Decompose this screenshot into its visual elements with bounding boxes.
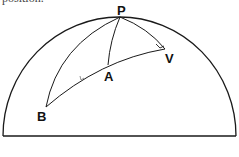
label-V: V <box>165 51 174 66</box>
label-P: P <box>117 3 126 18</box>
diagram-canvas: position. P A V B <box>0 0 239 157</box>
arc-PV <box>120 17 165 49</box>
celestial-hemisphere-diagram: P A V B <box>0 0 239 157</box>
label-A: A <box>104 69 114 84</box>
label-B: B <box>37 109 46 124</box>
arc-PB <box>46 17 120 107</box>
caption-fragment: position. <box>2 0 44 6</box>
arc-PA <box>108 17 120 65</box>
